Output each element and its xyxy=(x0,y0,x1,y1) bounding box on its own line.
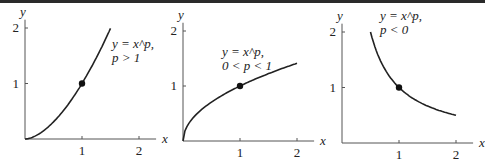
x-tick-label: 2 xyxy=(453,147,460,162)
curve-label-equation: y = x^p, xyxy=(378,8,422,23)
curve-label-condition: p > 1 xyxy=(111,50,140,65)
y-tick-label: 1 xyxy=(13,76,20,91)
curve xyxy=(183,63,297,141)
point-1-1 xyxy=(237,83,243,89)
x-tick-label: 2 xyxy=(294,145,301,160)
curve xyxy=(25,28,111,139)
x-axis-label: x xyxy=(319,133,326,148)
x-axis-label: x xyxy=(478,135,485,150)
y-tick-label: 2 xyxy=(330,24,337,39)
y-tick-label: 1 xyxy=(171,78,178,93)
point-1-1 xyxy=(79,80,85,86)
x-tick-label: 1 xyxy=(396,147,403,162)
curve-label-condition: 0 < p < 1 xyxy=(222,58,272,73)
point-1-1 xyxy=(396,84,402,90)
curve-label-condition: p < 0 xyxy=(379,22,409,37)
y-tick-label: 2 xyxy=(13,20,20,35)
x-tick-label: 2 xyxy=(136,143,143,158)
curve xyxy=(371,32,457,115)
curve-label-equation: y = x^p, xyxy=(220,44,264,59)
chart-panel-p-greater-1: 1212xyy = x^p,p > 1 xyxy=(13,4,169,158)
chart-panel-p-between-0-1: 1212xyy = x^p,0 < p < 1 xyxy=(171,7,327,160)
y-axis-label: y xyxy=(176,7,184,22)
curve-label-equation: y = x^p, xyxy=(110,36,154,51)
x-axis-label: x xyxy=(161,131,168,146)
y-tick-label: 2 xyxy=(171,23,178,38)
x-tick-label: 1 xyxy=(79,143,86,158)
y-tick-label: 1 xyxy=(330,80,337,95)
y-axis-label: y xyxy=(335,8,343,23)
y-axis-label: y xyxy=(18,4,26,19)
charts-canvas: 1212xyy = x^p,p > 1 1212xyy = x^p,0 < p … xyxy=(0,0,485,166)
chart-panel-p-negative: 1212xyy = x^p,p < 0 xyxy=(330,8,485,162)
x-tick-label: 1 xyxy=(237,145,244,160)
